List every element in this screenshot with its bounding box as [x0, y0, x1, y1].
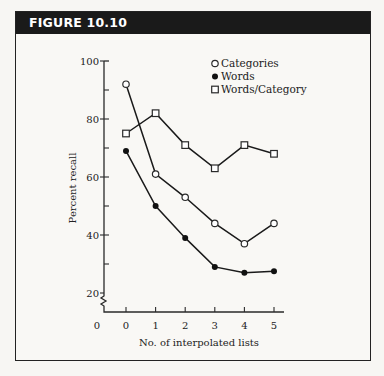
filled-circle-marker — [153, 203, 159, 209]
y-tick-label: 100 — [80, 56, 99, 67]
x-tick-label: 4 — [241, 320, 247, 331]
legend-entry: Words/Category — [221, 83, 307, 95]
x-tick-label: 1 — [152, 320, 158, 331]
filled-circle-marker — [212, 74, 218, 80]
chart-axes: 204060801000123450 — [80, 56, 284, 332]
chart-series — [123, 81, 278, 276]
open-circle-marker — [152, 171, 158, 177]
open-square-marker — [212, 86, 219, 93]
y-axis-title: Percent recall — [67, 153, 78, 224]
open-square-marker — [212, 165, 219, 172]
series-categories — [123, 81, 277, 247]
open-square-marker — [152, 110, 159, 117]
filled-circle-marker — [271, 268, 277, 274]
line-chart: 204060801000123450 CategoriesWordsWords/… — [0, 0, 384, 376]
legend-entry: Categories — [221, 57, 279, 69]
open-circle-marker — [212, 60, 218, 66]
filled-circle-marker — [182, 235, 188, 241]
open-circle-marker — [212, 220, 218, 226]
x-axis-title: No. of interpolated lists — [139, 337, 259, 348]
filled-circle-marker — [241, 270, 247, 276]
y-tick-label: 80 — [86, 114, 99, 125]
open-square-marker — [241, 142, 248, 149]
filled-circle-marker — [212, 264, 218, 270]
open-square-marker — [182, 142, 189, 149]
origin-label: 0 — [94, 320, 100, 331]
series-words-category — [123, 110, 278, 172]
x-tick-label: 2 — [182, 320, 188, 331]
open-square-marker — [271, 151, 278, 158]
open-circle-marker — [241, 241, 247, 247]
open-square-marker — [123, 130, 130, 137]
y-tick-label: 40 — [86, 230, 99, 241]
open-circle-marker — [123, 81, 129, 87]
chart-legend: CategoriesWordsWords/Category — [212, 57, 307, 95]
y-tick-label: 60 — [86, 172, 99, 183]
axis-lines — [101, 61, 284, 312]
series-words — [123, 148, 277, 276]
open-circle-marker — [271, 220, 277, 226]
x-tick-label: 3 — [212, 320, 218, 331]
x-tick-label: 5 — [271, 320, 277, 331]
legend-entry: Words — [221, 70, 255, 82]
open-circle-marker — [182, 194, 188, 200]
filled-circle-marker — [123, 148, 129, 154]
x-tick-label: 0 — [123, 320, 129, 331]
y-tick-label: 20 — [86, 288, 99, 299]
